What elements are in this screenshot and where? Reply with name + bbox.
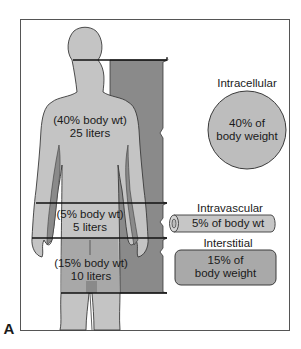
interstitial-body-label: (15% body wt) 10 liters xyxy=(43,257,139,283)
intravascular-percent: (5% body wt) xyxy=(45,208,135,221)
interstitial-box-line2: body weight xyxy=(175,267,276,280)
intracellular-circle-label: 40% of body weight xyxy=(208,117,286,143)
panel-label: A xyxy=(1,321,17,337)
intracellular-circle-line1: 40% of xyxy=(208,117,286,130)
interstitial-box-label: 15% of body weight xyxy=(175,254,276,280)
intracellular-circle-line2: body weight xyxy=(208,130,286,143)
intracellular-title: Intracellular xyxy=(200,77,294,90)
interstitial-box-line1: 15% of xyxy=(175,254,276,267)
intravascular-body-label: (5% body wt) 5 liters xyxy=(45,208,135,234)
body-fluid-diagram xyxy=(0,0,301,349)
interstitial-percent: (15% body wt) xyxy=(43,257,139,270)
interstitial-volume: 10 liters xyxy=(43,270,139,283)
intravascular-title: Intravascular xyxy=(180,202,280,215)
intravascular-cylinder-label: 5% of body wt xyxy=(180,217,276,230)
interstitial-title: Interstitial xyxy=(180,237,276,250)
intracellular-volume: 25 liters xyxy=(45,127,135,140)
intravascular-volume: 5 liters xyxy=(45,221,135,234)
intracellular-percent: (40% body wt) xyxy=(45,114,135,127)
intracellular-body-label: (40% body wt) 25 liters xyxy=(45,114,135,140)
